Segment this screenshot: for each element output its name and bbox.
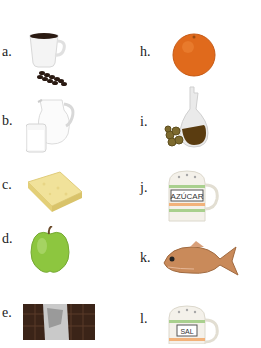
item-letter: h. [140,45,151,59]
orange-image [172,33,216,77]
item-j: j. AZÚCAR [130,165,260,225]
sugar-container-image: AZÚCAR [165,169,221,223]
apple-image [28,226,72,274]
item-letter: b. [2,114,13,128]
item-i: i. [130,85,260,145]
item-letter: c. [2,178,12,192]
item-l: l. SAL [130,300,260,348]
salt-label-text: SAL [180,328,193,335]
item-k: k. [130,235,260,295]
item-letter: e. [2,306,12,320]
item-letter: a. [2,45,12,59]
cheese-image [24,166,86,216]
item-letter: k. [140,251,151,265]
item-letter: i. [140,115,147,129]
milk-jug-image [26,96,82,158]
sugar-label-text: AZÚCAR [171,192,204,201]
item-b: b. [0,92,130,152]
item-d: d. [0,222,130,282]
item-c: c. [0,160,130,220]
left-column: a. b. [0,0,130,340]
right-column: h. i. j. [130,0,260,340]
salt-container-image: SAL [165,304,221,344]
coffee-cup-image [28,31,76,91]
item-letter: j. [140,181,147,195]
chocolate-bar-image [23,304,95,340]
fish-image [160,239,240,279]
item-e: e. [0,300,130,348]
oil-cruet-image [164,85,214,153]
item-letter: l. [140,312,147,326]
item-h: h. [130,25,260,85]
item-a: a. [0,25,130,85]
item-letter: d. [2,232,13,246]
